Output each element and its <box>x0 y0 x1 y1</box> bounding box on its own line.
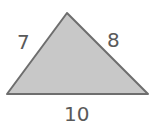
bottom-side-label: 10 <box>64 102 89 126</box>
left-side-label: 7 <box>17 30 30 54</box>
triangle-diagram: 7 8 10 <box>0 0 157 126</box>
right-side-label: 8 <box>107 28 120 52</box>
